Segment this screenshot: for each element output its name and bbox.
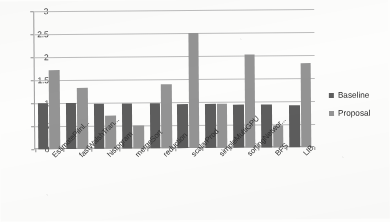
y-axis-tick-mark (31, 57, 34, 58)
bar-baseline (289, 105, 300, 147)
bar-proposal (188, 33, 199, 149)
gridlines (0, 0, 388, 2)
x-axis-tick-mark (63, 149, 64, 152)
legend-label-proposal: Proposal (338, 109, 370, 118)
y-axis-tick-mark (30, 34, 33, 35)
x-axis-tick-mark (119, 149, 120, 152)
x-axis: EstimatePiInl...fastWalshTran...histogra… (0, 0, 388, 2)
y-axis-tick-mark (31, 80, 34, 81)
y-axis-tick-mark (31, 126, 34, 127)
x-axis-tick-mark (203, 148, 204, 151)
x-axis-tick-mark (286, 147, 287, 150)
chart-legend: Baseline Proposal (329, 91, 371, 127)
bar-group (202, 10, 231, 148)
bar-group (34, 11, 63, 149)
y-axis: 00.511.522.53 (0, 0, 388, 2)
legend-label-baseline: Baseline (338, 91, 369, 100)
legend-swatch-baseline-icon (329, 93, 334, 98)
bar-group (285, 9, 314, 147)
bar-group (146, 10, 175, 148)
bar-baseline (38, 103, 49, 149)
x-axis-tick-mark (175, 148, 176, 151)
legend-item-baseline: Baseline (329, 91, 370, 100)
legend-item-proposal: Proposal (329, 109, 370, 118)
y-axis-tick-mark (31, 103, 34, 104)
y-axis-tick-mark (30, 11, 33, 12)
x-axis-tick-mark (314, 147, 315, 150)
x-axis-tick-mark (91, 149, 92, 152)
x-axis-tick-mark (231, 148, 232, 151)
bar-group (118, 10, 147, 148)
bar-chart: 00.511.522.53 EstimatePiInl...fastWalshT… (0, 0, 390, 222)
bar-proposal (300, 63, 311, 147)
x-axis-tick-mark (147, 148, 148, 151)
bar-proposal (49, 70, 60, 149)
legend-swatch-proposal-icon (329, 111, 334, 116)
x-axis-tick-mark (258, 147, 259, 150)
bar-proposal (161, 84, 172, 148)
bar-group (174, 10, 203, 148)
y-axis-tick-mark (31, 149, 34, 150)
x-axis-tick-mark (35, 149, 36, 152)
